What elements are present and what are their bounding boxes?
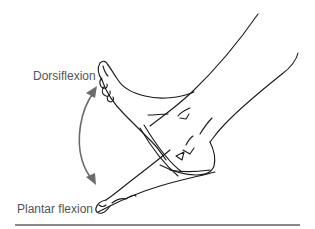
shin-front-line xyxy=(150,14,258,126)
dorsi-foot-top xyxy=(108,65,194,98)
plantar-flexion-label: Plantar flexion xyxy=(17,203,93,215)
plantar-foot-sole xyxy=(98,172,215,212)
achilles-line xyxy=(200,118,212,134)
ankle-illustration xyxy=(0,0,315,229)
bottom-divider xyxy=(15,224,300,226)
arrow-head-down-icon xyxy=(86,173,96,185)
ankle-detail-2 xyxy=(176,152,184,160)
dorsiflexion-label: Dorsiflexion xyxy=(33,70,96,82)
ankle-motion-diagram: Dorsiflexion Plantar flexion xyxy=(0,0,315,229)
motion-arrow xyxy=(79,92,94,180)
plantar-toe-line xyxy=(99,205,106,207)
heel-base xyxy=(170,170,210,172)
shin-back-line xyxy=(210,53,298,142)
dorsi-malleolus xyxy=(178,108,190,119)
dorsi-big-toe xyxy=(98,61,108,80)
ankle-detail-1 xyxy=(183,136,194,154)
heel-strap-2 xyxy=(144,125,182,172)
dorsi-toe-nail xyxy=(103,66,108,76)
